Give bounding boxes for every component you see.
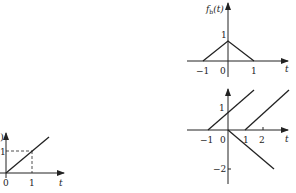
x-tick-neg1: −1 bbox=[196, 66, 209, 76]
ramp-line-down bbox=[228, 130, 274, 169]
ramp-line-left bbox=[208, 90, 254, 130]
x-tick-0: 0 bbox=[220, 66, 226, 76]
x-tick-1: 1 bbox=[243, 135, 249, 145]
ramp-line bbox=[6, 137, 49, 173]
x-tick-2: 2 bbox=[259, 135, 265, 145]
x-tick-1: 1 bbox=[29, 178, 35, 188]
y-tick-1: 1 bbox=[0, 147, 6, 157]
x-axis-label: t bbox=[59, 178, 63, 188]
y-tick-1: 1 bbox=[219, 103, 225, 113]
x-tick-0: 0 bbox=[220, 135, 226, 145]
figure-canvas: ) 1 0 1 t fb(t) 1 −1 0 1 t 1 −2 −1 0 1 2… bbox=[0, 0, 296, 193]
plot-lines: 1 −2 −1 0 1 2 t bbox=[187, 89, 289, 184]
x-tick-neg1: −1 bbox=[200, 135, 213, 145]
ramp-line-right bbox=[245, 90, 289, 130]
plot-triangle: fb(t) 1 −1 0 1 t bbox=[187, 3, 289, 77]
y-tick-1: 1 bbox=[221, 30, 227, 40]
plot-ramp-small: ) 1 0 1 t bbox=[0, 131, 64, 188]
y-tick-neg2: −2 bbox=[213, 164, 226, 174]
x-axis-label: t bbox=[285, 134, 289, 144]
y-axis-label: fb(t) bbox=[205, 4, 224, 15]
x-axis-label: t bbox=[285, 64, 289, 74]
x-tick-1: 1 bbox=[251, 66, 257, 76]
x-tick-0: 0 bbox=[3, 178, 9, 188]
y-axis-label: ) bbox=[0, 131, 4, 142]
